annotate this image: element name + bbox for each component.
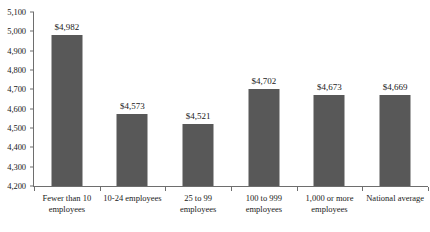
- bar: [117, 114, 148, 186]
- y-axis-tick-label: 5,000: [7, 27, 26, 36]
- y-axis-tick-mark: [30, 50, 34, 51]
- y-axis-tick-mark: [30, 166, 34, 167]
- plot-area: $4,982$4,573$4,521$4,702$4,673$4,669: [34, 12, 428, 186]
- x-axis-category-label: 100 to 999 employees: [231, 193, 297, 214]
- x-axis-category-label: Fewer than 10 employees: [34, 193, 100, 214]
- y-axis-tick-mark: [30, 12, 34, 13]
- bar: [183, 124, 214, 186]
- x-axis-tick-mark: [100, 187, 101, 191]
- y-axis-tick-mark: [30, 128, 34, 129]
- y-axis: 5,1005,0004,9004,8004,7004,6004,5004,400…: [0, 0, 29, 232]
- y-axis-tick-label: 4,600: [7, 104, 26, 113]
- x-axis-tick-mark: [297, 187, 298, 191]
- y-axis-tick-label: 4,400: [7, 143, 26, 152]
- y-axis-tick-label: 4,900: [7, 46, 26, 55]
- bar: [248, 89, 279, 186]
- bar-value-label: $4,573: [120, 102, 145, 111]
- x-axis-tick-mark: [428, 187, 429, 191]
- y-axis-tick-mark: [30, 147, 34, 148]
- x-axis: Fewer than 10 employees10-24 employees25…: [34, 193, 428, 232]
- bar-group: $4,982: [34, 12, 100, 186]
- bar-group: $4,669: [362, 12, 428, 186]
- y-axis-tick-mark: [30, 70, 34, 71]
- x-axis-tick-mark: [34, 187, 35, 191]
- bar-chart: 5,1005,0004,9004,8004,7004,6004,5004,400…: [0, 0, 430, 232]
- bar: [380, 95, 411, 186]
- y-axis-tick-label: 4,800: [7, 66, 26, 75]
- x-axis-category-label: 25 to 99 employees: [165, 193, 231, 214]
- y-axis-tick-label: 4,700: [7, 85, 26, 94]
- bar: [51, 35, 82, 186]
- y-axis-tick-mark: [30, 89, 34, 90]
- bar-value-label: $4,521: [186, 112, 211, 121]
- bar-group: $4,573: [100, 12, 166, 186]
- y-axis-tick-mark: [30, 31, 34, 32]
- bar: [314, 95, 345, 186]
- bar-value-label: $4,982: [54, 23, 79, 32]
- y-axis-tick-mark: [30, 108, 34, 109]
- y-axis-tick-label: 4,500: [7, 124, 26, 133]
- y-axis-tick-label: 5,100: [7, 8, 26, 17]
- bar-group: $4,521: [165, 12, 231, 186]
- x-axis-category-label: National average: [362, 193, 428, 204]
- x-axis-tick-mark: [231, 187, 232, 191]
- y-axis-tick-label: 4,300: [7, 162, 26, 171]
- x-axis-category-label: 1,000 or more employees: [297, 193, 363, 214]
- x-axis-category-label: 10-24 employees: [100, 193, 166, 204]
- x-axis-tick-mark: [362, 187, 363, 191]
- bar-value-label: $4,673: [317, 83, 342, 92]
- bar-value-label: $4,702: [251, 77, 276, 86]
- y-axis-tick-label: 4,200: [7, 182, 26, 191]
- bar-group: $4,673: [297, 12, 363, 186]
- bar-group: $4,702: [231, 12, 297, 186]
- x-axis-tick-mark: [165, 187, 166, 191]
- bar-value-label: $4,669: [383, 83, 408, 92]
